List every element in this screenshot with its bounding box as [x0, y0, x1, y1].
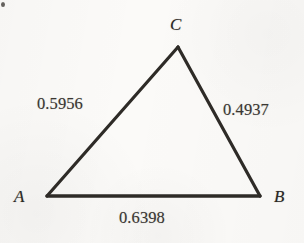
side-length-label-bc: 0.4937	[223, 102, 269, 119]
side-length-label-ac: 0.5956	[37, 96, 83, 113]
vertex-label-c: C	[170, 16, 181, 33]
vertex-label-a: A	[14, 188, 24, 205]
triangle-edge-bc	[178, 47, 260, 196]
triangle-figure: A B C 0.5956 0.4937 0.6398	[0, 0, 304, 243]
side-length-label-ab: 0.6398	[119, 210, 165, 227]
vertex-label-b: B	[274, 188, 284, 205]
triangle-outline	[0, 0, 304, 243]
triangle-edge-ac	[47, 47, 178, 196]
